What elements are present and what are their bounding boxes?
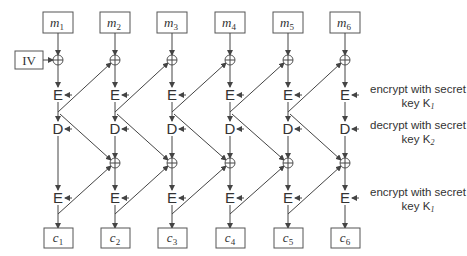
xor-icon [110,158,120,168]
svg-text:encrypt with secret: encrypt with secret [370,186,467,198]
feedback-arrow-middle [290,114,341,160]
plaintext-block-m3: m3 [157,12,187,33]
xor-icon [283,158,293,168]
plaintext-block-m2: m2 [100,12,130,33]
feedback-arrow-middle [117,114,168,160]
column-6: m6EDEc6 [330,12,360,248]
encrypt-k1-op: E [110,86,120,103]
feedback-arrow-top [288,63,341,112]
feedback-arrow-bottom [58,166,111,214]
plaintext-block-m4: m4 [215,12,245,33]
encrypt-k1-op: E [283,86,293,103]
xor-icon [340,55,350,65]
encrypt-k1-op: E [110,189,120,206]
annotation-decrypt-k2: decrypt with secret key K2 [370,119,467,147]
ciphertext-block-c1: c1 [44,228,73,248]
svg-text:encrypt with secret: encrypt with secret [370,83,467,95]
svg-text:key K2: key K2 [402,133,435,147]
xor-icon [340,158,350,168]
xor-icon [283,55,293,65]
feedback-arrow-top [172,63,226,112]
decrypt-k2-op: D [53,120,64,137]
decrypt-k2-op: D [283,120,294,137]
decrypt-k2-op: D [110,120,121,137]
encrypt-k1-op: E [225,189,235,206]
column-1: m1EDEc1 [43,12,111,248]
encrypt-k1-op: E [225,86,235,103]
encrypt-k1-op: E [340,86,350,103]
ciphertext-block-c3: c3 [158,228,187,248]
ciphertext-block-c5: c5 [274,228,303,248]
encrypt-k1-op: E [283,189,293,206]
column-3: m3EDEc3 [157,12,226,248]
xor-icon [110,55,120,65]
column-2: m2EDEc2 [100,12,168,248]
decrypt-k2-op: D [340,120,351,137]
plaintext-block-m6: m6 [330,12,360,33]
feedback-arrow-middle [232,114,284,160]
iv-box: IV [15,51,43,69]
feedback-arrow-middle [60,114,111,160]
feedback-arrow-bottom [288,166,341,214]
encrypt-k1-op: E [340,189,350,206]
feedback-arrow-top [230,63,284,112]
annotation-encrypt-k1-bottom: encrypt with secret key K1 [370,186,467,214]
xor-icon [225,158,235,168]
feedback-arrow-bottom [230,166,284,214]
feedback-arrow-top [115,63,168,112]
decrypt-k2-op: D [225,120,236,137]
encrypt-k1-op: E [167,86,177,103]
xor-icon [167,158,177,168]
xor-icon [167,55,177,65]
ciphertext-block-c4: c4 [216,228,245,248]
iv-label: IV [22,53,36,68]
column-5: m5EDEc5 [273,12,341,248]
feedback-arrow-bottom [172,166,226,214]
feedback-arrow-middle [174,114,226,160]
encrypt-k1-op: E [167,189,177,206]
svg-text:key K1: key K1 [402,97,435,111]
encrypt-k1-op: E [53,189,63,206]
feedback-arrow-bottom [115,166,168,214]
triple-encryption-cbc-diagram: IV m1EDEc1m2EDEc2m3EDEc3m4EDEc4m5EDEc5m6… [0,0,467,256]
plaintext-block-m5: m5 [273,12,303,33]
plaintext-block-m1: m1 [43,12,73,33]
ciphertext-block-c2: c2 [101,228,130,248]
column-4: m4EDEc4 [215,12,284,248]
xor-icon [53,55,63,65]
svg-text:key K1: key K1 [402,200,435,214]
svg-text:decrypt with secret: decrypt with secret [370,119,467,131]
encrypt-k1-op: E [53,86,63,103]
xor-icon [225,55,235,65]
feedback-arrow-top [58,63,111,112]
decrypt-k2-op: D [167,120,178,137]
ciphertext-block-c6: c6 [331,228,360,248]
annotation-encrypt-k1-top: encrypt with secret key K1 [370,83,467,111]
